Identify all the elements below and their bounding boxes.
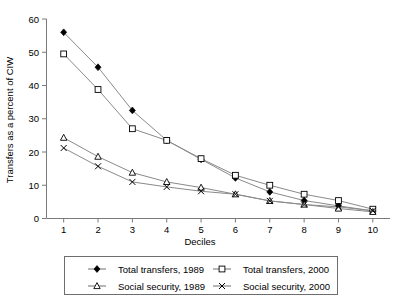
x-tick-label: 9 bbox=[336, 224, 341, 235]
series-markers bbox=[61, 51, 376, 212]
x-tick-label: 6 bbox=[233, 224, 238, 235]
chart-svg: Transfers as a percent of CIW 0102030405… bbox=[0, 0, 402, 303]
data-point-x-cross bbox=[95, 163, 101, 169]
chart-legend: Total transfers, 1989Total transfers, 20… bbox=[65, 257, 338, 295]
data-point-open-square bbox=[95, 87, 101, 93]
series-line bbox=[64, 138, 373, 212]
data-point-open-square bbox=[164, 137, 170, 143]
data-point-open-square bbox=[129, 126, 135, 132]
data-point-open-square bbox=[336, 198, 342, 204]
x-tick-label: 10 bbox=[368, 224, 379, 235]
series-markers bbox=[61, 145, 376, 214]
x-tick-label: 7 bbox=[267, 224, 272, 235]
data-point-open-square bbox=[267, 182, 273, 188]
data-point-open-square bbox=[219, 266, 225, 272]
data-point-open-square bbox=[61, 51, 67, 57]
plot-series-layer bbox=[60, 29, 376, 215]
series-markers bbox=[60, 134, 376, 214]
x-axis-ticks: 12345678910 bbox=[61, 219, 378, 236]
y-tick-label: 0 bbox=[34, 213, 39, 224]
y-tick-label: 10 bbox=[28, 180, 39, 191]
x-tick-label: 4 bbox=[164, 224, 169, 235]
data-point-x-cross bbox=[61, 145, 67, 151]
data-point-open-square bbox=[198, 156, 204, 162]
data-point-open-triangle bbox=[60, 134, 66, 140]
x-axis-title: Deciles bbox=[184, 236, 215, 247]
y-axis-ticks: 0102030405060 bbox=[28, 14, 46, 225]
y-axis-title: Transfers as a percent of CIW bbox=[4, 57, 15, 183]
y-tick-label: 60 bbox=[28, 14, 39, 25]
data-point-open-triangle bbox=[95, 153, 101, 159]
x-tick-label: 1 bbox=[61, 224, 66, 235]
y-tick-label: 40 bbox=[28, 80, 39, 91]
legend-label: Total transfers, 1989 bbox=[118, 264, 204, 275]
legend-label: Total transfers, 2000 bbox=[243, 264, 329, 275]
series-line bbox=[64, 148, 373, 211]
data-point-filled-diamond bbox=[267, 189, 273, 196]
series-line bbox=[64, 54, 373, 209]
legend-label: Social security, 2000 bbox=[243, 281, 330, 292]
x-tick-label: 3 bbox=[130, 224, 135, 235]
chart-figure: Transfers as a percent of CIW 0102030405… bbox=[0, 0, 402, 303]
series-line bbox=[64, 32, 373, 211]
y-tick-label: 20 bbox=[28, 147, 39, 158]
legend-label: Social security, 1989 bbox=[118, 281, 205, 292]
x-tick-label: 8 bbox=[301, 224, 306, 235]
y-tick-label: 30 bbox=[28, 113, 39, 124]
data-point-open-square bbox=[301, 191, 307, 197]
x-tick-label: 2 bbox=[95, 224, 100, 235]
x-tick-label: 5 bbox=[198, 224, 203, 235]
data-point-open-square bbox=[233, 172, 239, 178]
data-point-open-triangle bbox=[129, 169, 135, 175]
series-markers bbox=[61, 29, 376, 214]
y-tick-label: 50 bbox=[28, 47, 39, 58]
